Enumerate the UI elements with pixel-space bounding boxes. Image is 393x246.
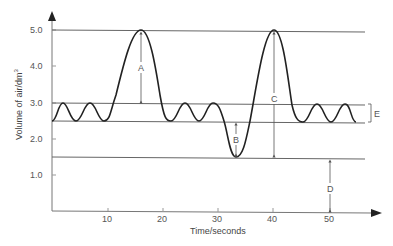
y-axis-title: Volume of air/dm3 — [13, 68, 24, 140]
x-axis-title: Time/seconds — [190, 226, 246, 236]
x-tick-label: 10 — [102, 214, 112, 224]
spirometer-diagram: 5.0 4.0 3.0 2.0 1.0 10 20 30 40 50 Time/… — [0, 0, 393, 246]
y-tick-label: 3.0 — [30, 98, 43, 108]
x-tick-label: 50 — [324, 214, 334, 224]
volume-trace — [52, 30, 356, 157]
x-axis-arrow-icon — [371, 209, 382, 217]
reference-lines — [52, 30, 365, 159]
line-max-inspiration — [52, 30, 365, 32]
x-tick-label: 30 — [212, 214, 222, 224]
label-c: C — [271, 94, 278, 104]
y-tick-label: 4.0 — [30, 61, 43, 71]
bracket-e — [368, 104, 371, 122]
y-axis-arrow-icon — [48, 11, 56, 21]
label-e: E — [374, 109, 380, 119]
svg-text:Volume of air/dm3: Volume of air/dm3 — [13, 68, 24, 140]
y-tick-label: 2.0 — [30, 134, 43, 144]
label-b: B — [233, 135, 239, 145]
x-tick-label: 20 — [157, 214, 167, 224]
line-tidal-bottom — [52, 121, 365, 123]
x-axis — [52, 211, 372, 213]
label-a: A — [138, 63, 144, 73]
line-max-expiration — [52, 157, 365, 159]
y-tick-label: 5.0 — [30, 25, 43, 35]
x-ticks: 10 20 30 40 50 — [102, 208, 334, 224]
label-d: D — [327, 184, 334, 194]
x-tick-label: 40 — [267, 214, 277, 224]
y-tick-label: 1.0 — [30, 170, 43, 180]
